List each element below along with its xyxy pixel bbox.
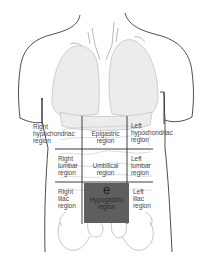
label-left-iliac: Left iliac region bbox=[133, 188, 151, 209]
label-left-lumbar: Left lumbar region bbox=[131, 155, 151, 176]
organs bbox=[52, 40, 158, 131]
highlight-letter: e bbox=[84, 183, 129, 197]
label-right-iliac: Right iliac region bbox=[58, 188, 76, 209]
label-left-hypochondriac: Left hypochondriac region bbox=[131, 122, 173, 143]
label-epigastric: Epigastric region bbox=[84, 130, 127, 144]
hypogastric-region-highlight: e Hypogastric region bbox=[84, 183, 129, 223]
label-umbilical: Umbilical region bbox=[84, 162, 127, 176]
abdominal-regions-diagram: Right hypochondriac region Epigastric re… bbox=[0, 0, 215, 266]
label-hypogastric: Hypogastric region bbox=[84, 196, 129, 210]
label-right-lumbar: Right lumbar region bbox=[58, 155, 78, 176]
label-right-hypochondriac: Right hypochondriac region bbox=[33, 123, 75, 144]
